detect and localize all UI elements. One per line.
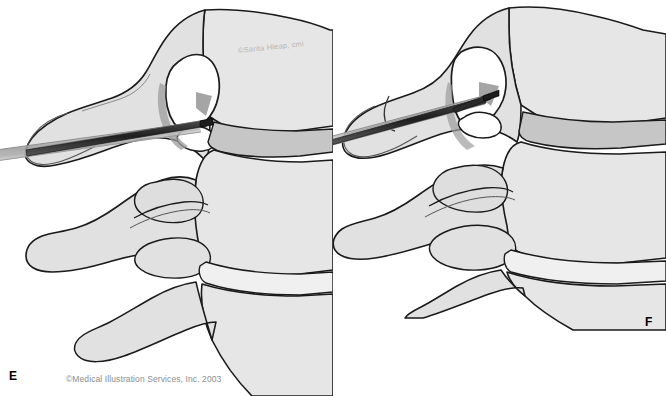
medical-illustration-figure: ©Sarita Hleap, cmi ©Medical Illustration… xyxy=(0,0,666,396)
panel-e: ©Sarita Hleap, cmi ©Medical Illustration… xyxy=(0,0,333,396)
panel-label-e: E xyxy=(9,370,17,382)
superior-articular-process-e xyxy=(135,179,204,222)
caudal-spinous-process-e xyxy=(75,282,216,362)
superior-vertebral-body-e xyxy=(203,9,333,133)
copyright-notice-e: ©Medical Illustration Services, Inc. 200… xyxy=(66,375,221,384)
superior-vertebral-body-f xyxy=(509,7,666,124)
superior-articular-process-f xyxy=(433,165,508,212)
foramen-inferior-lip-f xyxy=(458,112,501,138)
caudal-spinous-process-f xyxy=(405,270,525,318)
panel-e-illustration xyxy=(0,0,333,396)
inferior-vertebral-body-e xyxy=(194,150,333,275)
panel-label-f: F xyxy=(645,316,653,328)
inferior-vertebral-body-f xyxy=(500,142,666,264)
panel-f: ©Sarita Hleap, cmi ©Medical Illustration… xyxy=(333,0,666,396)
inferior-vertebra-e xyxy=(26,150,333,396)
panel-f-illustration xyxy=(333,0,666,396)
inferior-vertebra-f xyxy=(333,142,666,330)
